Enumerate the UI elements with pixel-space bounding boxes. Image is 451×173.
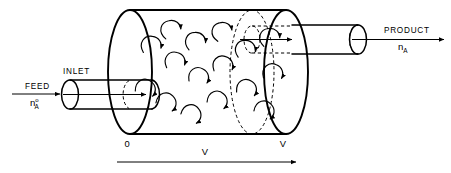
curved-arrow-icon: [253, 98, 277, 119]
product-label: PRODUCT: [384, 26, 430, 35]
curved-arrow-icon: [180, 102, 205, 124]
tank-left-face-ellipse: [108, 10, 152, 134]
curved-arrow-icon: [206, 89, 229, 109]
curved-arrow-icon: [208, 18, 233, 43]
inlet-label: INLET: [63, 67, 90, 76]
product-symbol-subscript: A: [403, 47, 408, 54]
feed-molar-flow-symbol: noA: [30, 97, 39, 110]
feed-symbol-superscript: o: [35, 97, 39, 103]
mixing-eddy-10: [206, 89, 229, 109]
curved-arrow-icon: [182, 28, 207, 51]
cstr-schematic-canvas: FEED noA INLET PRODUCT nA 0 V V: [0, 0, 451, 173]
mixing-eddy-15: [253, 98, 277, 119]
reactor-tank-group: [108, 10, 308, 134]
feed-label: FEED: [25, 82, 50, 91]
curved-arrow-icon: [236, 79, 257, 96]
mixing-eddy-12: [236, 79, 257, 96]
mixing-eddy-7: [180, 102, 205, 124]
mixing-eddy-11: [232, 37, 257, 59]
curved-arrow-icon: [189, 68, 209, 83]
volume-axis-label: V: [202, 146, 209, 157]
curved-arrow-icon: [157, 16, 182, 41]
curved-arrow-icon: [232, 37, 257, 59]
curved-arrow-icon: [262, 63, 283, 80]
mixing-eddy-layer: [135, 16, 284, 124]
mixing-eddy-6: [189, 68, 209, 83]
mixing-eddy-5: [182, 28, 207, 51]
volume-end-tick-label: V: [280, 138, 287, 149]
outlet-pipe-group: [240, 25, 367, 54]
mixing-eddy-2: [157, 16, 182, 41]
feed-symbol-subscript: A: [34, 103, 39, 110]
volume-start-tick-label: 0: [124, 138, 129, 149]
cstr-diagram: FEED noA INLET PRODUCT nA 0 V V: [0, 0, 451, 173]
mixing-eddy-3: [163, 50, 186, 70]
curved-arrow-icon: [163, 50, 186, 70]
mixing-eddy-8: [208, 18, 233, 43]
product-molar-flow-symbol: nA: [398, 41, 408, 54]
mixing-eddy-14: [262, 63, 283, 80]
